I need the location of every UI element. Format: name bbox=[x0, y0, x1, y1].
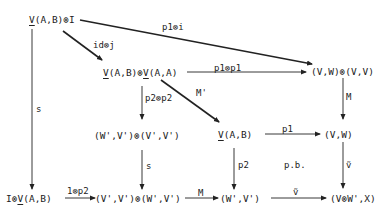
label-m-bottom: M bbox=[198, 188, 203, 199]
arrows-layer bbox=[0, 0, 391, 218]
label-v-tilde-right: ṽ bbox=[346, 160, 351, 171]
node-VW: (V,W) bbox=[324, 129, 353, 140]
label-m-prime: M' bbox=[196, 88, 207, 99]
label-id-j: id⊗j bbox=[93, 40, 115, 51]
label-s-mid: s bbox=[146, 161, 151, 172]
commutative-diagram: V(A,B)⊗I V(A,B)⊗V(A,A) (V,W)⊗(V,V) (W',V… bbox=[0, 0, 391, 218]
node-V-tensor-W-X: (V⊗W',X) bbox=[330, 193, 376, 204]
label-p1-p1: p1⊗p1 bbox=[214, 63, 241, 74]
pullback-annotation: p.b. bbox=[284, 160, 306, 171]
label-p2-p2: p2⊗p2 bbox=[145, 93, 172, 104]
label-m-right: M bbox=[346, 92, 351, 103]
node-VAB-tensor-I: V(A,B)⊗I bbox=[29, 14, 75, 25]
arrow-p1-i bbox=[80, 20, 312, 64]
node-VW-tensor-VV: (V,W)⊗(V,V) bbox=[311, 66, 374, 77]
node-VV-tensor-WV: (V',V')⊗(W',V') bbox=[95, 193, 181, 204]
label-p1-i: p1⊗i bbox=[162, 22, 184, 33]
node-VAB-tensor-VAA: V(A,B)⊗V(A,A) bbox=[103, 67, 177, 78]
label-1-p2: 1⊗p2 bbox=[67, 186, 89, 197]
label-v-tilde-bottom: ṽ bbox=[293, 187, 298, 198]
node-WV-tensor-VV: (W',V')⊗(V',V') bbox=[94, 130, 180, 141]
label-p2: p2 bbox=[238, 160, 249, 171]
node-I-tensor-VAB: I⊗V(A,B) bbox=[6, 193, 52, 204]
node-VAB: V(A,B) bbox=[218, 129, 252, 140]
label-s-left: s bbox=[36, 104, 41, 115]
label-p1: p1 bbox=[282, 124, 293, 135]
node-WV: (W',V') bbox=[220, 193, 260, 204]
